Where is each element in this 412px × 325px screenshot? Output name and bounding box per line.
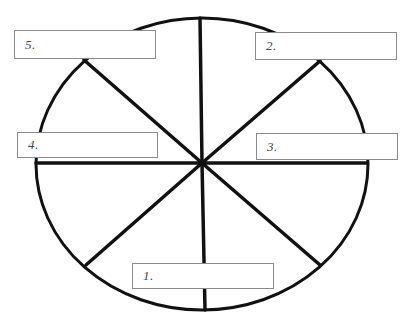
label-text-3: 3. [267, 139, 278, 155]
label-box-1[interactable]: 1. [132, 263, 274, 289]
label-text-4: 4. [28, 137, 39, 153]
label-box-4[interactable]: 4. [17, 132, 158, 158]
label-text-2: 2. [266, 38, 277, 54]
label-box-2[interactable]: 2. [255, 32, 397, 60]
label-box-5[interactable]: 5. [14, 30, 156, 59]
spoke-top [200, 18, 202, 163]
label-text-5: 5. [25, 37, 36, 53]
label-text-1: 1. [143, 268, 154, 284]
spoke-lower-right [202, 163, 320, 265]
spoke-lower-left [86, 163, 202, 265]
label-box-3[interactable]: 3. [256, 133, 398, 160]
